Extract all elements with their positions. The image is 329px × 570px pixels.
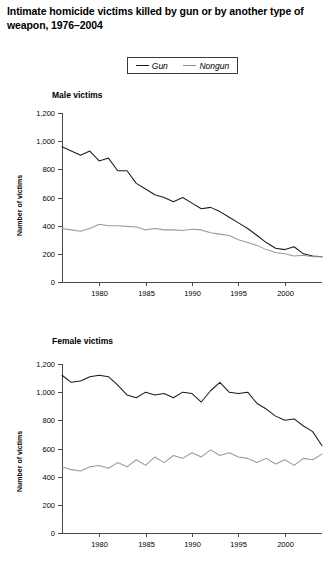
female-ytick-label: 200 — [42, 501, 55, 510]
female-xtick-label: 1980 — [91, 540, 108, 549]
legend-entry-nongun: Nongun — [183, 61, 229, 71]
chart-female-victims: 02004006008001,0001,20019801985199019952… — [18, 356, 329, 561]
male-series-gun — [62, 147, 322, 257]
male-xtick-label: 1995 — [230, 289, 247, 298]
male-ytick-label: 600 — [42, 194, 55, 203]
female-ytick-label: 1,200 — [36, 360, 55, 369]
female-ytick-label: 400 — [42, 473, 55, 482]
female-series-gun — [62, 375, 322, 445]
page-title: Intimate homicide victims killed by gun … — [7, 4, 323, 32]
female-ytick-label: 0 — [51, 529, 55, 538]
female-xtick-label: 1990 — [184, 540, 201, 549]
legend-label-gun: Gun — [152, 61, 168, 71]
male-ytick-label: 0 — [51, 278, 55, 287]
female-xtick-label: 1995 — [230, 540, 247, 549]
legend-swatch-gun — [136, 65, 149, 66]
female-series-nongun — [62, 450, 322, 471]
male-xtick-label: 1980 — [91, 289, 108, 298]
female-ytick-label: 600 — [42, 445, 55, 454]
panel-title-female: Female victims — [52, 336, 113, 346]
male-series-nongun — [62, 224, 322, 256]
female-ytick-label: 1,000 — [36, 388, 55, 397]
chart-legend: Gun Nongun — [127, 57, 238, 74]
male-ytick-label: 1,000 — [36, 137, 55, 146]
male-xtick-label: 2000 — [277, 289, 294, 298]
legend-label-nongun: Nongun — [199, 61, 229, 71]
chart-male-victims: 02004006008001,0001,20019801985199019952… — [18, 105, 329, 310]
male-xtick-label: 1985 — [138, 289, 155, 298]
male-ytick-label: 1,200 — [36, 109, 55, 118]
female-ytick-label: 800 — [42, 416, 55, 425]
male-ytick-label: 200 — [42, 250, 55, 259]
panel-title-male: Male victims — [52, 90, 103, 100]
legend-entry-gun: Gun — [136, 61, 168, 71]
male-ytick-label: 800 — [42, 165, 55, 174]
figure-page: Intimate homicide victims killed by gun … — [0, 0, 329, 570]
male-xtick-label: 1990 — [184, 289, 201, 298]
legend-swatch-nongun — [183, 65, 196, 66]
male-ytick-label: 400 — [42, 222, 55, 231]
female-xtick-label: 2000 — [277, 540, 294, 549]
female-xtick-label: 1985 — [138, 540, 155, 549]
